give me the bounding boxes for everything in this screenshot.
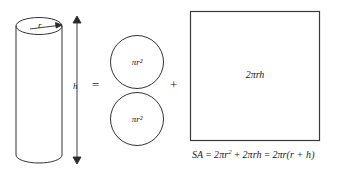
cylinder-surface-area-figure: r h = + πr² πr² 2πrh SA=2πr2+2πrh=2πr(r … [0,0,344,179]
bottom-cap-area-label: πr² [110,115,164,124]
formula-term-1: 2πr [214,149,228,160]
formula-term-3: 2πr(r + h) [272,149,314,160]
formula-plus: + [234,149,240,160]
radius-arrow-line [30,26,58,30]
formula-lhs: SA [192,149,203,160]
height-arrow-head-bottom [73,157,81,164]
radius-label: r [38,21,42,30]
formula-term-2: 2πrh [243,149,262,160]
plus-operator: + [170,78,177,91]
cylinder-bottom-arc [16,155,62,163]
height-label: h [73,82,78,91]
radius-arrow [30,23,62,30]
lateral-area-label: 2πrh [205,70,305,80]
formula-term-1-exponent: 2 [228,148,232,155]
cylinder-shape [16,18,62,164]
surface-area-formula: SA=2πr2+2πrh=2πr(r + h) [192,148,315,160]
formula-equals-1: = [206,149,212,160]
equals-operator: = [92,78,99,91]
top-cap-area-label: πr² [110,58,164,67]
formula-equals-2: = [264,149,270,160]
height-arrow-head-top [73,16,81,23]
